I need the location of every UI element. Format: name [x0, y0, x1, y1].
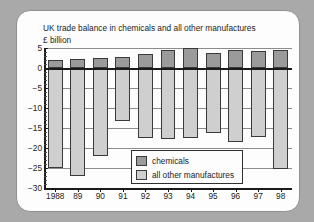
legend-swatch-all-other-manufactures: [136, 170, 147, 180]
x-tick-mark: [168, 188, 169, 192]
x-tick-mark: [213, 188, 214, 192]
y-minor-tick-mark: [44, 152, 47, 153]
bar-all-other-manufactures: [115, 68, 130, 121]
y-tick-label: −20: [16, 143, 42, 153]
y-minor-tick-mark: [44, 180, 47, 181]
legend-swatch-chemicals: [136, 156, 147, 166]
bar-chemicals: [115, 57, 130, 68]
x-tick-mark: [123, 188, 124, 192]
x-tick-label: 89: [73, 191, 82, 201]
y-axis-tick-labels: 50−5−10−15−20−25−30: [12, 48, 42, 188]
x-tick-label: 95: [208, 191, 217, 201]
y-minor-tick-mark: [44, 96, 47, 97]
bar-chemicals: [48, 60, 63, 68]
bar-all-other-manufactures: [93, 68, 108, 156]
bar-chemicals: [228, 50, 243, 68]
y-tick-label: −25: [16, 163, 42, 173]
x-tick-mark: [145, 188, 146, 192]
y-tick-label: −10: [16, 103, 42, 113]
y-minor-tick-mark: [44, 164, 47, 165]
y-minor-tick-mark: [44, 132, 47, 133]
y-minor-tick-mark: [44, 184, 47, 185]
x-tick-label: 94: [186, 191, 195, 201]
y-tick-label: −5: [16, 83, 42, 93]
bar-chemicals: [70, 59, 85, 68]
y-minor-tick-mark: [44, 176, 47, 177]
y-tick-label: −15: [16, 123, 42, 133]
x-tick-label: 96: [231, 191, 240, 201]
x-tick-mark: [55, 188, 56, 192]
bar-all-other-manufactures: [206, 68, 221, 133]
y-minor-tick-mark: [44, 72, 47, 73]
y-minor-tick-mark: [44, 140, 47, 141]
x-tick-mark: [78, 188, 79, 192]
bar-all-other-manufactures: [251, 68, 266, 137]
x-tick-mark: [258, 188, 259, 192]
y-tick-mark: [44, 168, 48, 169]
y-tick-label: 0: [16, 63, 42, 73]
legend-label-all-other-manufactures: all other manufactures: [152, 170, 234, 180]
x-tick-label: 98: [276, 191, 285, 201]
y-tick-mark: [44, 48, 48, 49]
chart-subtitle: £ billion: [43, 35, 71, 45]
y-minor-tick-mark: [44, 52, 47, 53]
chart-title: UK trade balance in chemicals and all ot…: [43, 23, 256, 33]
chart-legend: chemicals all other manufactures: [131, 150, 243, 184]
bar-all-other-manufactures: [228, 68, 243, 142]
y-minor-tick-mark: [44, 172, 47, 173]
bar-chemicals: [206, 53, 221, 68]
x-tick-mark: [236, 188, 237, 192]
y-minor-tick-mark: [44, 56, 47, 57]
legend-item-chemicals: chemicals: [136, 154, 189, 167]
y-minor-tick-mark: [44, 84, 47, 85]
x-tick-label: 1988: [46, 191, 64, 201]
x-tick-label: 92: [141, 191, 150, 201]
bar-all-other-manufactures: [183, 68, 198, 138]
y-tick-label: 5: [16, 43, 42, 53]
y-minor-tick-mark: [44, 116, 47, 117]
bar-all-other-manufactures: [138, 68, 153, 138]
y-minor-tick-mark: [44, 156, 47, 157]
bar-chemicals: [273, 50, 288, 68]
bar-chemicals: [251, 51, 266, 68]
bar-chemicals: [183, 48, 198, 68]
y-minor-tick-mark: [44, 92, 47, 93]
bar-all-other-manufactures: [48, 68, 63, 168]
x-tick-mark: [100, 188, 101, 192]
y-minor-tick-mark: [44, 100, 47, 101]
gridline-0: [44, 68, 292, 70]
y-minor-tick-mark: [44, 76, 47, 77]
y-minor-tick-mark: [44, 80, 47, 81]
y-minor-tick-mark: [44, 144, 47, 145]
y-tick-mark: [44, 188, 48, 189]
y-minor-tick-mark: [44, 136, 47, 137]
y-minor-tick-mark: [44, 124, 47, 125]
bar-all-other-manufactures: [161, 68, 176, 139]
bar-chemicals: [93, 58, 108, 68]
bar-chemicals: [161, 50, 176, 68]
legend-label-chemicals: chemicals: [152, 156, 189, 166]
y-minor-tick-mark: [44, 120, 47, 121]
x-tick-mark: [191, 188, 192, 192]
y-minor-tick-mark: [44, 64, 47, 65]
x-tick-label: 91: [118, 191, 127, 201]
x-tick-label: 90: [96, 191, 105, 201]
legend-item-all-other-manufactures: all other manufactures: [136, 168, 234, 181]
y-minor-tick-mark: [44, 112, 47, 113]
x-tick-label: 97: [254, 191, 263, 201]
x-tick-label: 93: [163, 191, 172, 201]
bar-all-other-manufactures: [70, 68, 85, 176]
y-minor-tick-mark: [44, 60, 47, 61]
x-axis-tick-labels: 198889909192939495969798: [44, 191, 292, 205]
y-minor-tick-mark: [44, 104, 47, 105]
x-tick-mark: [281, 188, 282, 192]
bar-chemicals: [138, 54, 153, 68]
chart-screenshot: UK trade balance in chemicals and all ot…: [0, 0, 314, 222]
bar-all-other-manufactures: [273, 68, 288, 169]
y-tick-label: −30: [16, 183, 42, 193]
y-minor-tick-mark: [44, 160, 47, 161]
